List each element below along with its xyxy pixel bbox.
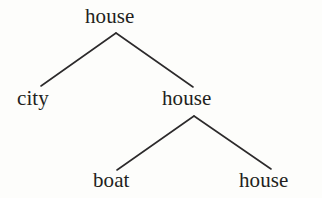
- edge-house-to-house: [194, 116, 271, 169]
- tree-node-boat: boat: [93, 170, 130, 191]
- binary-tree-diagram: house city house boat house: [0, 0, 322, 198]
- edge-root-to-city: [41, 33, 116, 86]
- tree-node-root: house: [85, 6, 135, 27]
- edge-house-to-boat: [117, 116, 194, 170]
- edge-root-to-house: [116, 33, 193, 87]
- tree-node-city: city: [17, 88, 49, 109]
- tree-node-house-level2: house: [162, 88, 212, 109]
- tree-node-house-leaf: house: [239, 170, 289, 191]
